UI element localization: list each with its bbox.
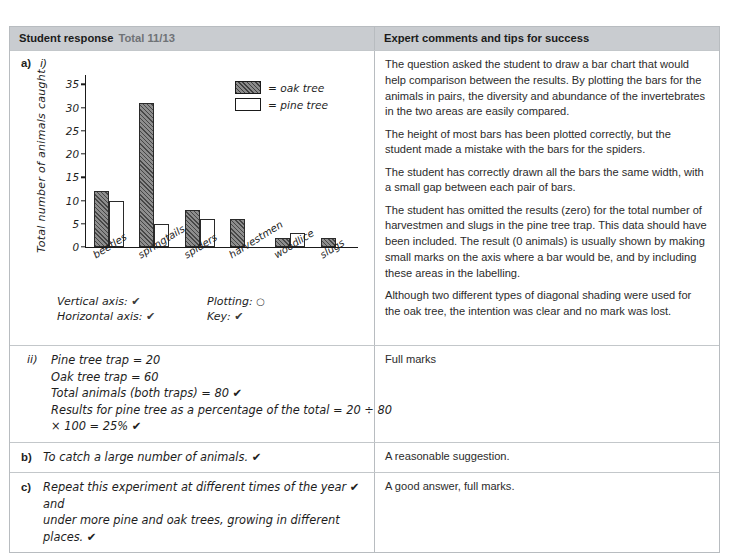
expert-comment-paragraph: A good answer, full marks.	[385, 479, 709, 495]
part-c-answer-line-1: Repeat this experiment at different time…	[43, 479, 365, 512]
mark-summary-row-1: Vertical axis: ✔ Plotting: ○	[57, 295, 357, 308]
chart-y-tick: 30	[66, 102, 86, 114]
part-c-expert-comment: A good answer, full marks.	[375, 473, 719, 552]
working-line: Total animals (both traps) = 80 ✔	[51, 385, 365, 402]
mark-key: Key: ✔	[207, 310, 357, 323]
part-a-chart-area: a)i) = oak tree = pine tree	[19, 57, 365, 338]
mark-key-tick-icon: ✔	[234, 310, 243, 323]
working-line: Results for pine tree as a percentage of…	[51, 402, 365, 419]
part-a-label: a)	[21, 57, 31, 69]
total-score-badge: Total 11/13	[119, 32, 175, 44]
chart-bar-group	[86, 75, 131, 247]
mark-summary-row-2: Horizontal axis: ✔ Key: ✔	[57, 310, 357, 323]
part-a-answer-cell: a)i) = oak tree = pine tree	[10, 51, 375, 345]
chart-y-tick: 35	[66, 78, 86, 90]
marked-answer-table: Student responseTotal 11/13 Expert comme…	[9, 26, 720, 553]
part-c-label: c)	[21, 479, 31, 496]
part-a-ii-working: ii) Pine tree trap = 20 Oak tree trap = …	[19, 352, 365, 435]
chart-bar-group	[313, 75, 358, 247]
chart-bars	[86, 75, 358, 247]
part-a-mark-summary: Vertical axis: ✔ Plotting: ○ Horizontal …	[57, 295, 357, 325]
row-part-c: c) Repeat this experiment at different t…	[10, 472, 719, 552]
chart-bar-group	[131, 75, 176, 247]
bar-chart: Total number of animals caught 051015202…	[39, 75, 369, 285]
mark-plotting: Plotting: ○	[207, 295, 357, 308]
student-response-header: Student responseTotal 11/13	[10, 27, 375, 50]
part-a-expert-comments: The question asked the student to draw a…	[375, 51, 719, 345]
row-part-a-ii: ii) Pine tree trap = 20 Oak tree trap = …	[10, 345, 719, 442]
part-a-ii-expert-comment: Full marks	[375, 346, 719, 442]
mark-horizontal-axis-label: Horizontal axis:	[57, 310, 142, 323]
part-b-answer-cell: b) To catch a large number of animals. ✔	[10, 443, 375, 473]
mark-horizontal-axis-tick-icon: ✔	[146, 310, 155, 323]
chart-y-axis-label: Total number of animals caught	[35, 83, 48, 253]
row-part-b: b) To catch a large number of animals. ✔…	[10, 442, 719, 473]
part-c-answer: c) Repeat this experiment at different t…	[19, 479, 365, 545]
part-b-answer: b) To catch a large number of animals. ✔	[19, 449, 365, 466]
chart-y-tick: 20	[66, 148, 86, 160]
chart-y-tick: 0	[72, 241, 86, 253]
part-b-expert-comment: A reasonable suggestion.	[375, 443, 719, 473]
expert-comment-paragraph: The student has omitted the results (zer…	[385, 203, 709, 282]
chart-y-tick: 15	[66, 171, 86, 183]
working-line: Oak tree trap = 60	[51, 369, 365, 386]
part-b-answer-text: To catch a large number of animals. ✔	[43, 450, 261, 464]
part-a-label-group: a)i)	[21, 57, 46, 69]
mark-plotting-label: Plotting:	[207, 295, 253, 308]
chart-y-tick: 25	[66, 125, 86, 137]
working-line: × 100 = 25% ✔	[51, 418, 365, 435]
chart-y-tick: 10	[66, 195, 86, 207]
part-a-roman-ii: ii)	[27, 352, 38, 368]
expert-comments-header: Expert comments and tips for success	[375, 27, 719, 50]
chart-bar-group	[222, 75, 267, 247]
mark-key-label: Key:	[207, 310, 231, 323]
expert-comment-paragraph: The student has correctly drawn all the …	[385, 165, 709, 197]
part-c-answer-cell: c) Repeat this experiment at different t…	[10, 473, 375, 552]
part-a-ii-lines: Pine tree trap = 20 Oak tree trap = 60 T…	[51, 352, 365, 435]
chart-bar-springtails-oak-tree	[139, 103, 154, 247]
chart-bar-group	[177, 75, 222, 247]
part-b-label: b)	[21, 449, 32, 466]
table-header-row: Student responseTotal 11/13 Expert comme…	[10, 27, 719, 50]
expert-comment-paragraph: Although two different types of diagonal…	[385, 288, 709, 320]
chart-plot-area: 05101520253035	[85, 75, 358, 248]
expert-comment-paragraph: Full marks	[385, 352, 709, 368]
part-a-roman-i: i)	[40, 57, 46, 69]
part-c-answer-line-2: under more pine and oak trees, growing i…	[43, 512, 365, 545]
student-response-title: Student response	[19, 32, 114, 44]
part-a-ii-answer-cell: ii) Pine tree trap = 20 Oak tree trap = …	[10, 346, 375, 442]
working-line: Pine tree trap = 20	[51, 352, 365, 369]
chart-y-tick: 5	[72, 218, 86, 230]
mark-horizontal-axis: Horizontal axis: ✔	[57, 310, 207, 323]
chart-bar-beetles-oak-tree	[94, 191, 109, 247]
mark-vertical-axis-tick-icon: ✔	[131, 295, 140, 308]
expert-comment-paragraph: A reasonable suggestion.	[385, 449, 709, 465]
row-part-a: a)i) = oak tree = pine tree	[10, 50, 719, 345]
mark-vertical-axis: Vertical axis: ✔	[57, 295, 207, 308]
mark-vertical-axis-label: Vertical axis:	[57, 295, 128, 308]
mark-plotting-circle-icon: ○	[256, 296, 265, 307]
expert-comment-paragraph: The question asked the student to draw a…	[385, 57, 709, 120]
expert-comment-paragraph: The height of most bars has been plotted…	[385, 127, 709, 159]
